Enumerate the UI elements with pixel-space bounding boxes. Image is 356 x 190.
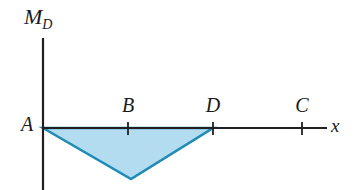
y-axis-label: MD <box>24 6 52 32</box>
y-axis-label-subscript: D <box>42 17 52 32</box>
x-axis-label: x <box>331 116 339 135</box>
shaded-moment-area <box>43 128 213 179</box>
point-label-b: B <box>119 95 137 115</box>
point-label-c: C <box>293 95 311 115</box>
bending-moment-diagram: MD x A B D C <box>0 0 356 190</box>
y-axis-label-main: M <box>24 4 42 29</box>
point-label-d: D <box>204 95 222 115</box>
point-label-a: A <box>18 114 36 134</box>
